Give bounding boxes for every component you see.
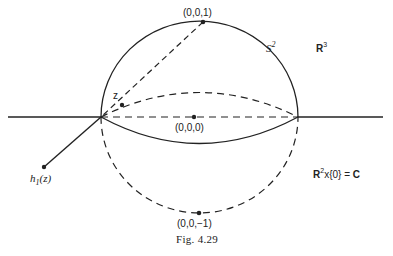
h1z-label: h1(z): [30, 172, 51, 187]
z-label: z: [113, 90, 118, 101]
north-pole-point: [201, 20, 206, 25]
stereographic-projection-diagram: (0,0,1) (0,0,0) (0,0,−1) z S2 R3 R2x{0} …: [0, 0, 393, 256]
figure-caption: Fig. 4.29: [176, 233, 218, 245]
projection-line-dashed: [101, 22, 203, 117]
north-pole-label: (0,0,1): [183, 7, 212, 18]
origin-label: (0,0,0): [175, 122, 204, 133]
sphere-label: S2: [266, 40, 276, 54]
sphere-upper-arc: [101, 21, 298, 117]
projection-line-solid: [44, 117, 101, 167]
h1z-point: [42, 165, 46, 169]
plane-label: R2x{0} = C: [313, 167, 360, 180]
origin-point: [192, 115, 196, 119]
south-pole-point: [197, 211, 202, 216]
south-pole-label: (0,0,−1): [177, 218, 212, 229]
equator-back-dashed: [101, 93, 298, 118]
z-point: [120, 103, 124, 107]
space-label: R3: [316, 41, 327, 54]
